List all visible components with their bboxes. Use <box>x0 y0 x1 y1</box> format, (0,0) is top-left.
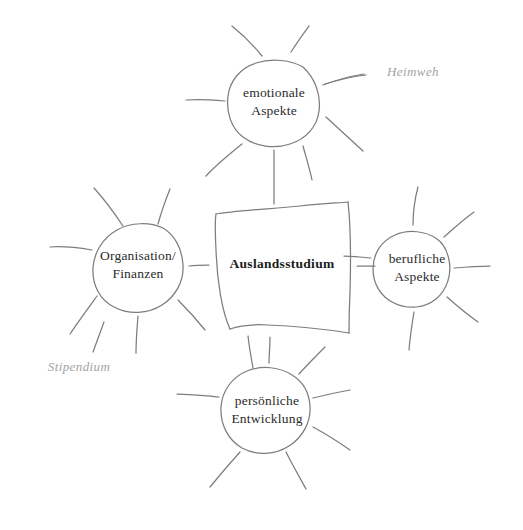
leader-stipendium <box>93 322 104 352</box>
annotation-heimweh: Heimweh <box>387 64 439 80</box>
mindmap-canvas: Auslandsstudium emotionale Aspekte Organ… <box>0 0 523 530</box>
rays-organisation <box>50 188 205 353</box>
node-circle-organisation <box>93 224 183 313</box>
node-circle-berufliche <box>373 232 450 308</box>
rays-berufliche <box>344 187 490 350</box>
rays-emotionale <box>186 26 364 180</box>
rays-persoenliche <box>177 336 350 489</box>
node-circle-persoenliche <box>221 368 310 454</box>
connector-left <box>189 265 209 266</box>
annotation-stipendium: Stipendium <box>48 359 111 375</box>
connector-bottom <box>269 337 270 363</box>
node-circle-emotionale <box>228 60 320 146</box>
center-node-label: Auslandsstudium <box>229 256 334 272</box>
leader-heimweh <box>325 75 366 84</box>
